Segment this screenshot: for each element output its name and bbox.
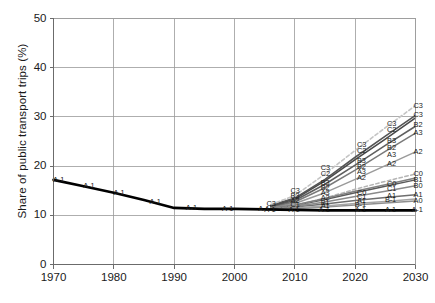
y-tick-label: 0 <box>21 258 47 270</box>
x-tick-label: 2000 <box>215 271 255 283</box>
series-inline-label: C2 <box>321 170 330 177</box>
series-inline-label: C2 <box>387 126 396 133</box>
series-inline-label: A0 <box>414 197 423 204</box>
series-inline-label: A-1 <box>355 206 366 213</box>
y-tick-label: 20 <box>21 159 47 171</box>
series-inline-label: C3 <box>414 102 423 109</box>
y-tick-label: 40 <box>21 61 47 73</box>
series-inline-label: A-1 <box>288 206 299 213</box>
series-inline-label: A-1 <box>113 189 124 196</box>
series-inline-label: A2 <box>357 174 366 181</box>
series-inline-label: A-1 <box>150 198 161 205</box>
series-inline-label: A-1 <box>53 176 64 183</box>
series-inline-label: A3 <box>414 129 423 136</box>
series-inline-label: C2 <box>357 147 366 154</box>
series-inline-label: A-1 <box>319 206 330 213</box>
series-inline-label: A-1 <box>186 204 197 211</box>
series-inline-label: A-1 <box>264 206 275 213</box>
y-tick-label: 50 <box>21 12 47 24</box>
series-inline-label: A2 <box>387 160 396 167</box>
x-tick-label: 2010 <box>275 271 315 283</box>
y-tick-label: 30 <box>21 110 47 122</box>
x-tick-label: 1980 <box>94 271 134 283</box>
series-inline-label: A-1 <box>411 206 422 213</box>
series-inline-label: A2 <box>414 148 423 155</box>
series-inline-label: A-1 <box>83 182 94 189</box>
chart-canvas <box>0 0 435 303</box>
series-inline-label: A3 <box>387 151 396 158</box>
series-inline-label: C3 <box>414 111 423 118</box>
series-inline-label: A-1 <box>385 206 396 213</box>
series-inline-label: B-1 <box>385 196 396 203</box>
x-tick-label: 1990 <box>154 271 194 283</box>
x-tick-label: 2020 <box>335 271 375 283</box>
x-tick-label: 2030 <box>396 271 435 283</box>
x-tick-label: 1970 <box>34 271 74 283</box>
chart-figure: Share of public transport trips (%) 0102… <box>0 0 435 303</box>
series-inline-label: A-1 <box>222 205 233 212</box>
series-inline-label: B0 <box>414 182 423 189</box>
y-tick-label: 10 <box>21 208 47 220</box>
